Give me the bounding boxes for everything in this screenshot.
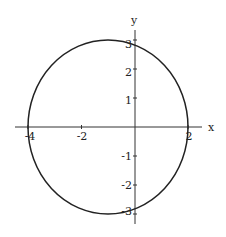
y-tick-label: -1 xyxy=(121,150,132,163)
x-axis-label: x xyxy=(208,121,215,134)
y-tick-label: 1 xyxy=(125,94,132,107)
y-tick-label: 2 xyxy=(125,66,132,79)
y-tick-label: 3 xyxy=(125,38,132,51)
x-tick-label: -4 xyxy=(25,130,36,143)
x-tick-label: -2 xyxy=(77,130,88,143)
y-axis-label: y xyxy=(130,14,138,27)
y-tick-label: -2 xyxy=(121,179,132,192)
x-tick-label: 2 xyxy=(186,130,193,143)
plot-area: -4 -2 2 3 2 1 -1 -2 -3 x y xyxy=(0,0,226,237)
y-tick-label: -3 xyxy=(121,205,132,218)
